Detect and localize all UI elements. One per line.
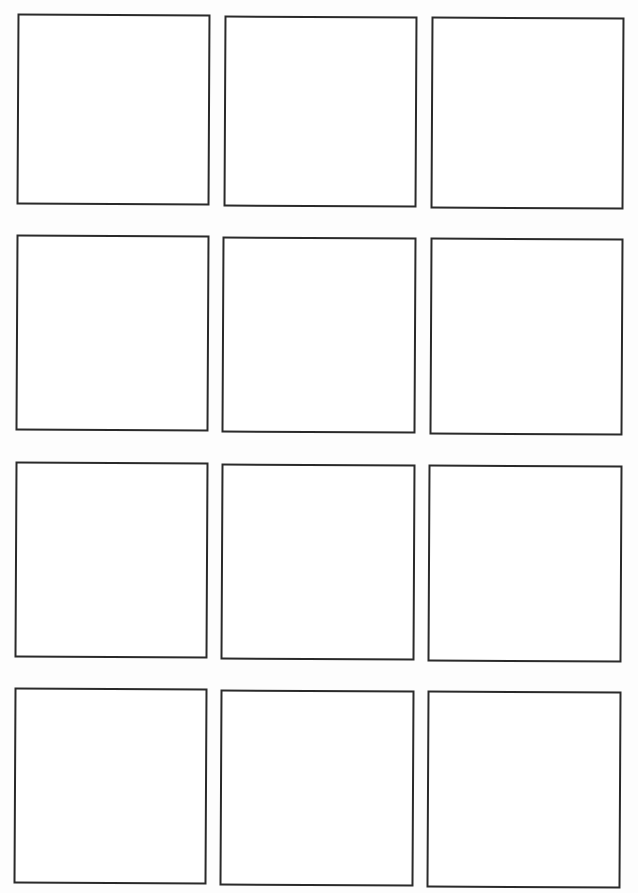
- grid-box-r4-c2: [219, 689, 414, 886]
- grid-box-r3-c2: [220, 463, 415, 660]
- grid-box-r1-c2: [224, 15, 418, 207]
- grid-box-r3-c3: [427, 464, 622, 662]
- grid-box-r4-c1: [13, 687, 207, 884]
- scanned-page: [0, 0, 638, 893]
- grid-box-r1-c3: [430, 16, 624, 209]
- grid-box-r1-c1: [17, 13, 211, 205]
- grid-box-r4-c3: [426, 690, 621, 888]
- grid-box-r2-c1: [15, 234, 209, 431]
- grid-box-r2-c2: [221, 236, 416, 433]
- grid-box-r3-c1: [14, 461, 208, 658]
- grid-box-r2-c3: [429, 237, 623, 435]
